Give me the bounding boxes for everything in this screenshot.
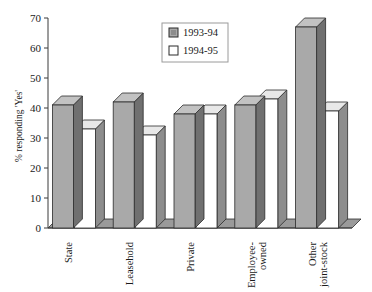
- y-axis-tick-label: 40: [30, 102, 42, 114]
- legend-item-1[interactable]: 1994-95: [169, 45, 218, 56]
- x-axis-category-label: Private: [185, 242, 196, 272]
- y-axis-title: % responding 'Yes': [14, 90, 24, 162]
- y-axis-tick-label: 70: [30, 12, 42, 24]
- bar-1993-94-2: [174, 105, 204, 228]
- y-axis-tick-label: 30: [30, 132, 42, 144]
- bar-front-face: [113, 102, 134, 228]
- y-axis-tick-label: 50: [30, 72, 42, 84]
- legend-swatch-inner-0: [171, 30, 176, 35]
- legend-swatch-1: [169, 46, 178, 55]
- x-axis-category-label: owned: [257, 241, 268, 270]
- bar-chart: 010203040506070% responding 'Yes'StateLe…: [0, 0, 372, 292]
- bar-side-face: [278, 90, 287, 228]
- bar-front-face: [235, 105, 256, 228]
- bar-side-face: [339, 102, 348, 228]
- y-axis-tick-label: 60: [30, 42, 42, 54]
- x-axis-category-label: State: [63, 242, 74, 263]
- bar-1993-94-0: [52, 96, 82, 228]
- bar-side-face: [317, 18, 326, 228]
- bar-side-face: [73, 96, 82, 228]
- bar-side-face: [256, 96, 265, 228]
- chart-canvas: 010203040506070% responding 'Yes'StateLe…: [0, 0, 372, 292]
- bar-side-face: [134, 93, 143, 228]
- bar-1993-94-4: [296, 18, 326, 228]
- legend-item-0[interactable]: 1993-94: [169, 27, 219, 38]
- bar-front-face: [174, 114, 195, 228]
- x-axis-category-label: Other: [307, 242, 318, 266]
- bar-1993-94-3: [235, 96, 265, 228]
- bar-side-face: [217, 105, 226, 228]
- x-axis-category-label: Employee-: [246, 242, 257, 289]
- y-axis-tick-label: 20: [30, 162, 42, 174]
- y-axis-tick-label: 10: [30, 192, 42, 204]
- bar-side-face: [156, 126, 165, 228]
- x-axis-category-label: Leasehold: [124, 241, 135, 285]
- bar-side-face: [195, 105, 204, 228]
- bar-front-face: [296, 27, 317, 228]
- x-axis-category-label: joint-stock: [318, 241, 329, 288]
- y-axis-tick-label: 0: [36, 222, 42, 234]
- legend-label-1: 1994-95: [183, 45, 218, 56]
- bar-1993-94-1: [113, 93, 143, 228]
- bar-side-face: [95, 120, 104, 228]
- bar-front-face: [52, 105, 73, 228]
- legend-label-0: 1993-94: [183, 27, 219, 38]
